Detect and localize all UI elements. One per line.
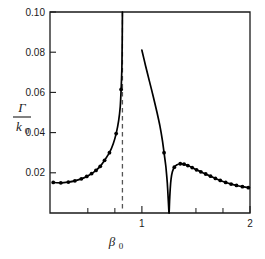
data-point-marker <box>229 182 233 186</box>
data-point-marker <box>79 177 83 181</box>
data-point-marker <box>199 170 203 174</box>
y-axis-label-denominator-subscript: 0 <box>25 126 30 136</box>
data-point-marker <box>246 186 250 190</box>
data-point-marker <box>85 175 89 179</box>
data-point-marker <box>51 181 55 185</box>
x-axis-label-subscript: 0 <box>119 241 124 251</box>
y-tick-label: 0.02 <box>26 167 46 178</box>
data-point-marker <box>66 180 70 184</box>
data-point-markers <box>51 87 250 189</box>
data-point-marker <box>195 168 199 172</box>
curve-upper-branch <box>142 50 248 213</box>
data-point-marker <box>114 132 118 136</box>
data-point-marker <box>204 172 208 176</box>
y-axis-tick-labels: 0.020.040.060.080.10 <box>26 7 46 179</box>
y-axis-ticks <box>50 12 56 173</box>
data-point-marker <box>182 162 186 166</box>
y-tick-label: 0.06 <box>26 87 46 98</box>
y-axis-label-numerator: Γ <box>17 100 26 115</box>
data-point-marker <box>119 87 123 91</box>
y-axis-label-denominator: k <box>16 119 22 134</box>
data-point-marker <box>108 151 112 155</box>
x-tick-label: 2 <box>247 218 253 229</box>
data-point-marker <box>218 179 222 183</box>
data-point-marker <box>94 168 98 172</box>
x-tick-label: 1 <box>139 218 145 229</box>
data-point-marker <box>224 181 228 185</box>
x-axis-label: β 0 <box>108 234 124 251</box>
data-point-marker <box>103 158 107 162</box>
data-point-marker <box>241 185 245 189</box>
data-curves <box>53 12 248 213</box>
data-point-marker <box>98 164 102 168</box>
scientific-plot: 0.020.040.060.080.10 12 Γ k 0 β 0 <box>0 0 265 259</box>
data-point-marker <box>162 151 166 155</box>
data-point-marker <box>209 174 213 178</box>
data-point-marker <box>186 164 190 168</box>
plot-frame <box>50 12 250 213</box>
x-axis-label-symbol: β <box>108 234 116 249</box>
y-tick-label: 0.10 <box>26 7 46 18</box>
x-axis-tick-labels: 12 <box>139 218 253 229</box>
y-axis-label: Γ k 0 <box>13 100 31 136</box>
data-point-marker <box>178 162 182 166</box>
figure-container: 0.020.040.060.080.10 12 Γ k 0 β 0 <box>0 0 265 259</box>
curve-lower-branch <box>53 12 122 183</box>
data-point-marker <box>214 177 218 181</box>
data-point-marker <box>73 179 77 183</box>
data-point-marker <box>90 172 94 176</box>
data-point-marker <box>172 165 176 169</box>
data-point-marker <box>235 184 239 188</box>
data-point-marker <box>59 181 63 185</box>
data-point-marker <box>190 166 194 170</box>
y-tick-label: 0.08 <box>26 47 46 58</box>
